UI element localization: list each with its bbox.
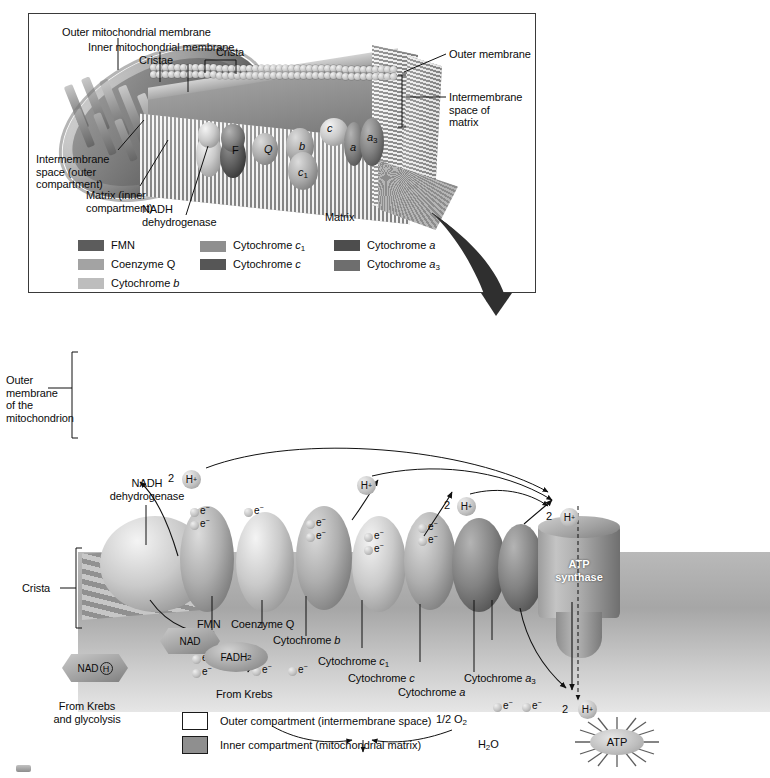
legend-swatch (334, 260, 360, 271)
proton-count-4: 2 (546, 510, 552, 523)
complex-tag-a: a (350, 141, 356, 154)
label-outer-membrane: Outer membrane (449, 48, 531, 61)
atp-synthase-label: ATPsynthase (540, 558, 618, 583)
label-nadh-dehydrogenase-lower: NADHdehydrogenase (104, 477, 190, 502)
chain-label-cytochrome-a: Cytochrome a (398, 686, 465, 699)
label-from-krebs-glycolysis: From Krebsand glycolysis (32, 700, 142, 725)
complex-tag-F: F (232, 144, 239, 157)
compartment-swatch (182, 736, 208, 754)
legend-label: Cytochrome c1 (233, 239, 305, 253)
legend-label: Cytochrome a (367, 239, 435, 251)
legend-swatch (78, 259, 104, 270)
chain-label-cytochrome-c1: Cytochrome c1 (318, 655, 389, 672)
figure-canvas: F Q b c c1 a a3 Outer mitochondrial memb… (0, 0, 770, 778)
complex-tag-b: b (299, 140, 305, 153)
chain-label-cytochrome-b: Cytochrome b (273, 634, 340, 647)
legend-swatch (200, 241, 226, 252)
proton-token-4: H+ (560, 508, 579, 527)
compartment-legend-item: Inner compartment (mitochondrial matrix) (182, 736, 432, 754)
chain-label-coenzyme-q: Coenzyme Q (231, 618, 294, 631)
fadh2-oval: FADH2 (204, 642, 268, 672)
legend-swatch (78, 240, 104, 251)
proton-count-3: 2 (444, 499, 450, 512)
proton-token-2: H+ (357, 476, 376, 495)
legend-swatch (78, 278, 104, 289)
nadh-hexagon: NADH (62, 654, 128, 682)
compartment-swatch (182, 712, 208, 730)
label-inner-mitochondrial-membrane: Inner mitochondrial membrane (88, 41, 234, 54)
legend-label: FMN (111, 239, 135, 251)
label-crista-top: Crista (216, 46, 244, 59)
label-water: H2O (478, 738, 499, 755)
legend-item: Cytochrome c1 (200, 239, 305, 253)
legend-item: FMN (78, 239, 135, 251)
chain-label-cytochrome-a3: Cytochrome a3 (464, 672, 536, 689)
label-outer-membrane-of-mitochondrion: Outermembraneof themitochondrion (6, 374, 74, 424)
compartment-legend-item: Outer compartment (intermembrane space) (182, 712, 432, 730)
label-nadh-dehydrogenase-top: NADHdehydrogenase (142, 203, 217, 228)
label-crista-lower: Crista (22, 582, 50, 595)
legend-swatch (200, 259, 226, 270)
complex-tag-a3: a3 (367, 131, 377, 148)
complex-tag-Q: Q (264, 143, 272, 156)
legend-item: Cytochrome a (334, 239, 435, 251)
complex-tag-c: c (327, 122, 332, 135)
page-corner-chip (16, 765, 31, 772)
compartment-label: Inner compartment (mitochondrial matrix) (220, 739, 421, 751)
label-intermembrane-space-of-matrix: Intermembranespace ofmatrix (449, 91, 522, 129)
legend-swatch (334, 240, 360, 251)
proton-token-3: H+ (457, 497, 476, 516)
label-outer-mitochondrial-membrane: Outer mitochondrial membrane (62, 26, 211, 39)
proton-count-5: 2 (562, 703, 568, 716)
compartment-label: Outer compartment (intermembrane space) (220, 715, 432, 727)
label-matrix: Matrix (325, 211, 354, 224)
legend-label: Cytochrome c (233, 258, 301, 270)
legend-item: Coenzyme Q (78, 258, 175, 270)
legend-item: Cytochrome c (200, 258, 301, 270)
label-from-krebs: From Krebs (216, 688, 272, 701)
complex-tag-c1: c1 (298, 166, 308, 183)
legend-label: Coenzyme Q (111, 258, 175, 270)
label-oxygen: 1/2 O2 (436, 713, 467, 730)
legend-label: Cytochrome a3 (367, 258, 440, 272)
chain-label-cytochrome-c: Cytochrome c (348, 672, 415, 685)
atp-burst: ATP (574, 716, 660, 768)
legend-label: Cytochrome b (111, 277, 179, 289)
compartment-legend: Outer compartment (intermembrane space)I… (182, 712, 432, 760)
legend-item: Cytochrome a3 (334, 258, 440, 272)
label-intermembrane-space-outer: Intermembranespace (outercompartment) (36, 153, 109, 191)
label-cristae: Cristae (139, 54, 173, 67)
chain-label-fmn: FMN (197, 618, 221, 631)
legend-item: Cytochrome b (78, 277, 179, 289)
